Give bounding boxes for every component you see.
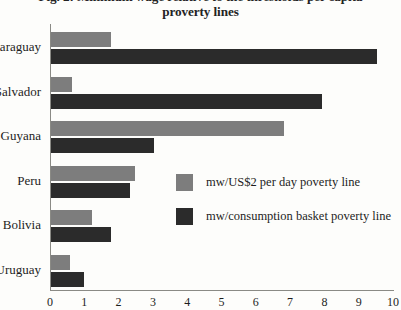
x-tick-0: 0 [38, 295, 62, 310]
bar [51, 121, 284, 136]
x-tick-4: 4 [175, 295, 199, 310]
category-label-paraguay: Paraguay [0, 39, 41, 55]
bar [51, 255, 70, 270]
chart-title-line-2: proverty lines [0, 4, 401, 19]
bar [51, 138, 154, 153]
chart-title: Fig. 2: Minimum wage relative to the thr… [0, 0, 401, 19]
bar [51, 32, 111, 47]
x-tick-7: 7 [278, 295, 302, 310]
bar [51, 77, 72, 92]
bar [51, 94, 322, 109]
category-label-bolivia: Bolivia [3, 217, 41, 233]
legend-label: mw/US$2 per day poverty line [206, 175, 360, 190]
legend-swatch-icon [176, 208, 193, 225]
x-tick-3: 3 [141, 295, 165, 310]
x-tick-2: 2 [107, 295, 131, 310]
x-tick-10: 10 [381, 295, 401, 310]
x-axis-line [50, 290, 394, 291]
bar [51, 272, 84, 287]
legend-swatch-icon [176, 174, 193, 191]
x-tick-8: 8 [312, 295, 336, 310]
bar [51, 183, 130, 198]
category-label-el-salvador: El Salvador [0, 84, 41, 100]
figure-container: Fig. 2: Minimum wage relative to the thr… [0, 0, 401, 310]
bar [51, 227, 111, 242]
plot-area: ParaguayEl SalvadorGuyanaPeruBoliviaUrug… [50, 24, 394, 291]
legend-item: mw/US$2 per day poverty line [176, 174, 391, 191]
legend-item: mw/consumption basket poverty line [176, 208, 391, 225]
bar [51, 49, 377, 64]
bar [51, 210, 92, 225]
x-tick-6: 6 [244, 295, 268, 310]
legend-label: mw/consumption basket poverty line [206, 209, 391, 224]
x-tick-9: 9 [347, 295, 371, 310]
chart-legend: mw/US$2 per day poverty linemw/consumpti… [176, 174, 391, 242]
x-tick-5: 5 [210, 295, 234, 310]
bar [51, 166, 135, 181]
category-label-guyana: Guyana [1, 128, 41, 144]
x-tick-1: 1 [72, 295, 96, 310]
category-label-peru: Peru [17, 173, 41, 189]
category-label-uruguay: Uruguay [0, 262, 41, 278]
